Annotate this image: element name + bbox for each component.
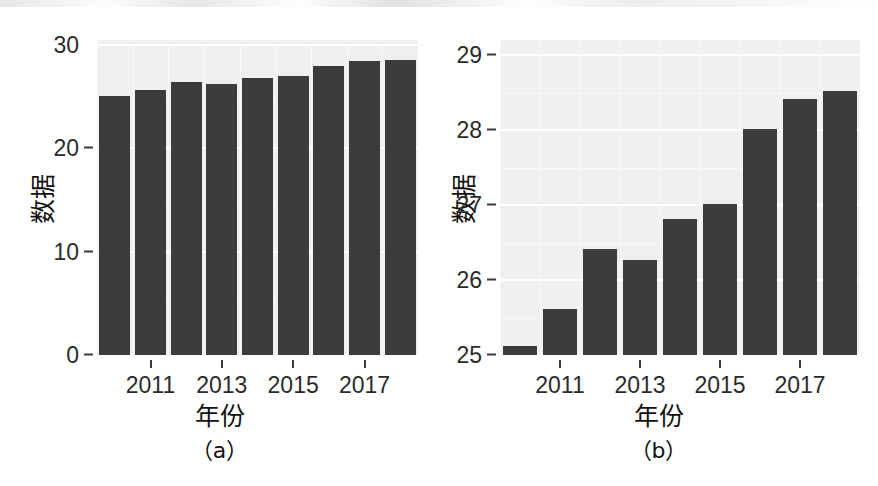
x-tick-mark (559, 360, 561, 368)
gridline-minor-vertical (620, 40, 621, 355)
gridline-major-horizontal (500, 54, 860, 56)
bar (583, 249, 617, 356)
y-tick-mark (84, 250, 93, 252)
bar (385, 60, 416, 355)
gridline-minor-vertical (133, 40, 134, 355)
y-axis-ticks-b: 2526272829 (439, 40, 496, 355)
bar (503, 346, 537, 355)
y-tick-label: 10 (53, 238, 93, 265)
gridline-minor-vertical (740, 40, 741, 355)
gridline-minor-vertical (168, 40, 169, 355)
x-tick-mark (221, 360, 223, 368)
x-axis-label-a: 年份 (0, 396, 439, 432)
bar (823, 91, 857, 355)
bar (171, 82, 202, 355)
x-tick-label: 2011 (535, 372, 584, 399)
bar (703, 204, 737, 356)
x-tick-mark (364, 360, 366, 368)
figure-container: 数据 0102030 2011201320152017 年份 （a） 数据 25… (0, 0, 878, 486)
gridline-minor-vertical (97, 40, 98, 355)
bar (743, 129, 777, 356)
bar (278, 76, 309, 355)
y-tick-mark (487, 203, 496, 205)
y-tick-label: 26 (456, 267, 496, 294)
y-tick-mark (487, 53, 496, 55)
x-tick-label: 2015 (268, 372, 319, 399)
bar (99, 96, 130, 355)
y-tick-mark (84, 353, 93, 355)
x-axis-ticks-a: 2011201320152017 (97, 355, 418, 401)
x-tick-label: 2017 (339, 372, 390, 399)
bar (135, 90, 166, 355)
bar (783, 99, 817, 356)
gridline-minor-vertical (540, 40, 541, 355)
y-tick-mark (84, 147, 93, 149)
gridline-major-horizontal (97, 44, 418, 46)
subfigure-caption-a: （a） (0, 432, 439, 464)
y-tick-label: 25 (456, 342, 496, 369)
y-tick-mark (487, 128, 496, 130)
x-tick-label: 2011 (126, 372, 175, 399)
subfigure-a: 数据 0102030 2011201320152017 年份 （a） (0, 0, 439, 486)
y-tick-label: 29 (456, 42, 496, 69)
y-tick-label: 0 (66, 342, 93, 369)
gridline-minor-horizontal (500, 93, 860, 94)
gridline-minor-vertical (204, 40, 205, 355)
x-tick-mark (799, 360, 801, 368)
gridline-minor-vertical (382, 40, 383, 355)
x-axis-label-b: 年份 (439, 396, 878, 432)
gridline-minor-vertical (780, 40, 781, 355)
gridline-minor-vertical (347, 40, 348, 355)
bar (313, 66, 344, 355)
bar (623, 260, 657, 355)
y-tick-mark (487, 278, 496, 280)
plot-panel-a (97, 40, 418, 355)
gridline-minor-vertical (660, 40, 661, 355)
x-axis-ticks-b: 2011201320152017 (500, 355, 860, 401)
x-tick-mark (639, 360, 641, 368)
gridline-minor-vertical (580, 40, 581, 355)
plot-panel-b (500, 40, 860, 355)
gridline-minor-vertical (240, 40, 241, 355)
bar (242, 78, 273, 355)
y-tick-label: 28 (456, 117, 496, 144)
bar (206, 84, 237, 355)
x-tick-label: 2013 (196, 372, 247, 399)
gridline-minor-vertical (311, 40, 312, 355)
gridline-minor-vertical (500, 40, 501, 355)
y-tick-label: 27 (456, 192, 496, 219)
x-tick-mark (292, 360, 294, 368)
bar (543, 309, 577, 356)
y-axis-ticks-a: 0102030 (0, 40, 93, 355)
gridline-minor-vertical (700, 40, 701, 355)
subfigure-b: 数据 2526272829 2011201320152017 年份 （b） (439, 0, 878, 486)
x-tick-label: 2013 (614, 372, 665, 399)
gridline-minor-vertical (820, 40, 821, 355)
bar (349, 61, 380, 355)
x-tick-mark (719, 360, 721, 368)
x-tick-label: 2017 (774, 372, 825, 399)
y-tick-label: 20 (53, 135, 93, 162)
x-tick-label: 2015 (694, 372, 745, 399)
x-tick-mark (150, 360, 152, 368)
y-tick-mark (487, 353, 496, 355)
gridline-minor-vertical (275, 40, 276, 355)
subfigure-caption-b: （b） (439, 432, 878, 464)
y-tick-label: 30 (53, 32, 93, 59)
bar (663, 219, 697, 355)
